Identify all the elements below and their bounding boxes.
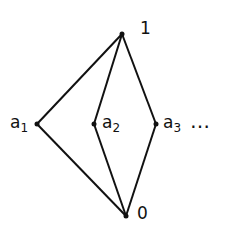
label-a2: a2 <box>102 114 120 134</box>
edge-a2-bottom <box>94 124 126 216</box>
node-bottom <box>124 214 129 219</box>
node-top <box>120 32 125 37</box>
edge-a1-bottom <box>37 124 126 216</box>
continuation-ellipsis: … <box>190 111 210 131</box>
label-a3: a3 <box>163 114 181 134</box>
node-a3 <box>154 122 159 127</box>
label-bottom: 0 <box>137 205 148 222</box>
label-top: 1 <box>140 20 151 37</box>
edge-top-a1 <box>37 34 122 124</box>
edge-top-a3 <box>122 34 156 124</box>
hasse-diagram: 1 0 a1 a2 a3 … <box>0 0 226 233</box>
node-a1 <box>35 122 40 127</box>
node-a2 <box>92 122 97 127</box>
label-a1: a1 <box>10 114 28 134</box>
